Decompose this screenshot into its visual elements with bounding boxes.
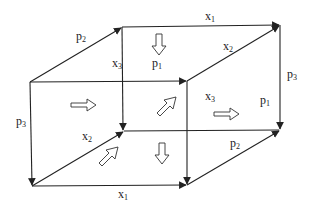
edge-back-bottom (124, 130, 279, 131)
edge-x1-top (122, 25, 279, 27)
block-arrow-down-top-icon (152, 34, 166, 55)
label-p3-left: p3 (16, 115, 26, 129)
label-p2-top: p2 (76, 30, 86, 44)
label-x2-mid: x2 (82, 130, 92, 144)
edge-front-top (30, 81, 186, 82)
label-x2-top: x2 (223, 40, 233, 54)
edge-x3-back (122, 27, 123, 130)
label-x3-back: x3 (112, 57, 122, 71)
block-arrow-right-right-icon (214, 108, 239, 120)
label-p3-right: p3 (287, 68, 297, 82)
label-x1-top: x1 (205, 10, 215, 24)
edge-p3-left (30, 82, 32, 185)
label-x3-mid: x3 (205, 90, 215, 104)
label-p1-right: p1 (260, 94, 270, 108)
label-p1-top: p1 (152, 57, 162, 71)
edge-x2-top (187, 26, 279, 81)
block-arrow-diagonal-low-icon (99, 147, 118, 166)
block-arrow-down-bottom-icon (155, 143, 169, 164)
edge-x1-bottom (32, 185, 186, 186)
label-x1-bottom: x1 (118, 188, 128, 202)
label-p2-bottom: p2 (230, 137, 240, 151)
block-arrow-right-left-icon (71, 99, 96, 111)
block-arrow-diagonal-mid-icon (157, 97, 176, 116)
